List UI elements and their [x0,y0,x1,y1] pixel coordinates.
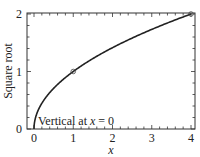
x-tick-label: 4 [188,131,194,145]
x-tick-label: 0 [31,131,37,145]
annotation-vertical-at-zero: Vertical at x = 0 [38,114,114,128]
annotation-prefix: Vertical at [38,114,90,128]
y-tick-label: 2 [16,7,22,21]
x-tick-label: 3 [149,131,155,145]
x-tick-label: 1 [70,131,76,145]
annotation-suffix: = 0 [95,114,114,128]
sqrt-line [34,14,191,129]
square-root-chart: 01234012 Vertical at x = 0 x Square root [0,0,200,157]
y-tick-label: 0 [16,122,22,136]
data-markers [71,12,193,74]
x-axis-label: x [107,143,114,157]
plot-frame [27,13,195,129]
axis-ticks [27,13,195,129]
y-tick-label: 1 [16,65,22,79]
sqrt-curve [34,14,191,129]
y-axis-label: Square root [1,43,15,99]
